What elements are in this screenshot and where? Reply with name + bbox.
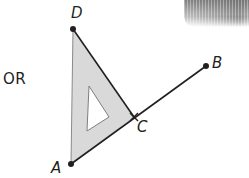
geometry-diagram [0,0,249,178]
label-c: C [137,120,147,135]
label-d: D [71,6,83,21]
point-b [203,63,209,69]
label-a: A [51,161,61,176]
point-d [70,26,76,32]
label-b: B [212,56,222,71]
or-text: OR [3,72,26,87]
set-square [71,29,134,164]
point-a [68,161,74,167]
